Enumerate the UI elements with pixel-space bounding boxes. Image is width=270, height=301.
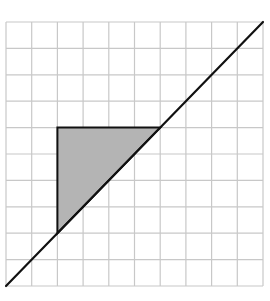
grid-diagram — [0, 0, 270, 301]
